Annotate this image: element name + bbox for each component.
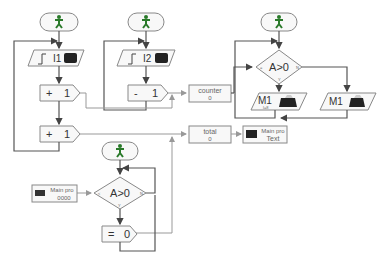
process-4: A>0 < N Y = 0 Main pro 0000 [32, 142, 155, 251]
op-symbol: = [108, 228, 114, 240]
display-title: Main pro [50, 187, 74, 193]
process-3: A>0 = N Y M1 l=8 M1 [234, 13, 376, 118]
decision-a-gt-0[interactable]: A>0 = N Y [256, 50, 302, 84]
display-value: 0000 [57, 195, 71, 201]
display-icon [35, 190, 45, 196]
input-label: I2 [143, 53, 152, 64]
start-block-1[interactable] [40, 13, 78, 31]
pushbutton-icon [155, 53, 168, 63]
branch-no-label: N [140, 191, 143, 196]
display-counter[interactable]: Main pro 0000 [32, 185, 77, 202]
variable-total[interactable]: total 0 [189, 126, 231, 143]
input-block-i1[interactable]: I1 [28, 50, 84, 66]
display-title: Main pro [261, 128, 285, 134]
start-block-4[interactable] [102, 142, 138, 160]
branch-yes-label: Y [118, 203, 121, 208]
op-symbol: + [46, 87, 52, 99]
branch-no-label: N [296, 65, 299, 70]
op-block-plus-1b[interactable]: + 1 [40, 126, 80, 142]
op-value: 1 [64, 87, 70, 99]
output-block-m1-b[interactable]: M1 [320, 93, 376, 110]
input-label: I1 [53, 53, 62, 64]
variable-counter[interactable]: counter 0 [189, 85, 231, 102]
pushbutton-icon [64, 53, 77, 63]
op-value: 1 [152, 87, 158, 99]
output-label: M1 [329, 96, 343, 107]
op-symbol: - [134, 87, 138, 99]
op-value: 1 [64, 128, 70, 140]
op-symbol: + [46, 128, 52, 140]
variable-name: total [203, 128, 217, 135]
decision-label: A>0 [269, 61, 289, 73]
flowchart-canvas: I1 + 1 + 1 [0, 0, 387, 263]
decision-label: A>0 [110, 187, 130, 199]
op-block-plus-1[interactable]: + 1 [40, 85, 80, 101]
branch-yes-label: Y [278, 77, 281, 82]
op-value: 0 [124, 228, 130, 240]
start-block-2[interactable] [128, 13, 164, 31]
input-block-i2[interactable]: I2 [117, 50, 175, 66]
display-value: Text [267, 135, 280, 142]
output-block-m1-a[interactable]: M1 l=8 [251, 93, 307, 110]
display-icon [246, 130, 257, 138]
process-1: I1 + 1 + 1 [14, 13, 84, 151]
op-block-minus-1[interactable]: - 1 [128, 85, 168, 101]
display-text[interactable]: Main pro Text [243, 126, 287, 143]
decision-a-gt-0-b[interactable]: A>0 < N Y [94, 177, 146, 209]
op-block-equals-0[interactable]: = 0 [102, 226, 137, 242]
process-2: I2 - 1 [104, 13, 175, 110]
output-sub: l=8 [263, 105, 269, 110]
variable-name: counter [198, 87, 222, 94]
start-block-3[interactable] [261, 13, 297, 31]
